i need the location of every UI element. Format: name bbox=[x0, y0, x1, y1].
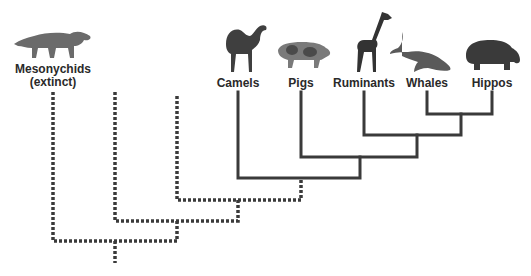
taxon-label-mesonychids: Mesonychids (extinct) bbox=[15, 63, 91, 89]
taxon-sublabel: (extinct) bbox=[15, 76, 91, 89]
taxon-label-ruminants: Ruminants bbox=[333, 77, 395, 90]
taxon-label-camels: Camels bbox=[217, 77, 260, 90]
hippo-icon bbox=[464, 36, 522, 72]
whale-icon bbox=[388, 30, 454, 74]
phylogenetic-tree-diagram: Mesonychids (extinct) Camels Pigs Rumina… bbox=[0, 0, 531, 276]
taxon-label-hippos: Hippos bbox=[472, 77, 513, 90]
mesonychid-icon bbox=[12, 26, 94, 62]
solid-branches bbox=[238, 92, 492, 178]
taxon-label-pigs: Pigs bbox=[288, 77, 313, 90]
taxon-label-whales: Whales bbox=[406, 77, 448, 90]
pig-icon bbox=[276, 38, 332, 70]
camel-icon bbox=[222, 22, 268, 74]
